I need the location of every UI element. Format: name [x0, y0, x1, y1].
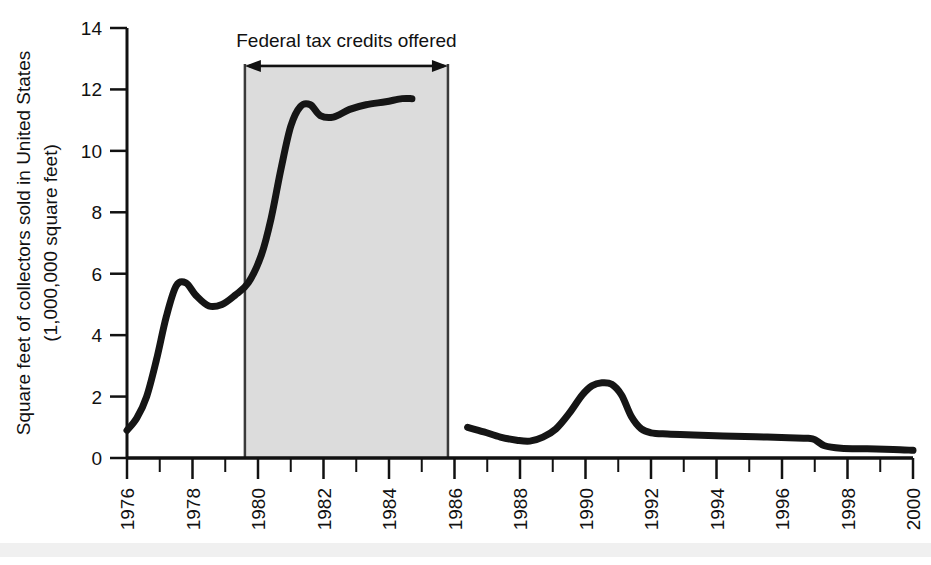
x-tick-label: 2000	[903, 488, 924, 530]
line-chart: Federal tax credits offered 02468101214 …	[0, 0, 931, 565]
x-tick-label: 1998	[838, 488, 859, 530]
x-tick-label: 1984	[379, 488, 400, 531]
y-axis-ticks: 02468101214	[81, 18, 127, 469]
y-tick-label: 0	[91, 448, 102, 469]
chart-figure: Federal tax credits offered 02468101214 …	[0, 0, 931, 565]
x-tick-label: 1996	[772, 488, 793, 530]
y-tick-label: 4	[91, 325, 102, 346]
y-tick-label: 6	[91, 264, 102, 285]
annotation-label: Federal tax credits offered	[236, 30, 456, 51]
y-tick-label: 14	[81, 18, 103, 39]
x-tick-label: 1982	[314, 488, 335, 530]
page-bottom-band	[0, 543, 931, 557]
y-tick-label: 8	[91, 202, 102, 223]
federal-tax-credits-shaded-region	[245, 64, 448, 458]
x-axis-ticks: 1976197819801982198419861988199019921994…	[117, 458, 924, 530]
x-tick-label: 1986	[445, 488, 466, 530]
y-tick-label: 10	[81, 141, 102, 162]
x-tick-label: 1994	[707, 488, 728, 531]
x-tick-label: 1976	[117, 488, 138, 530]
x-tick-label: 1988	[510, 488, 531, 530]
y-tick-label: 12	[81, 79, 102, 100]
y-tick-label: 2	[91, 387, 102, 408]
x-tick-label: 1978	[183, 488, 204, 530]
x-tick-label: 1990	[576, 488, 597, 530]
data-line-series-2	[468, 383, 913, 451]
y-axis-title-line2: (1,000,000 square feet)	[40, 144, 61, 342]
x-tick-label: 1992	[641, 488, 662, 530]
y-axis-title-line1: Square feet of collectors sold in United…	[13, 51, 34, 435]
x-tick-label: 1980	[248, 488, 269, 530]
